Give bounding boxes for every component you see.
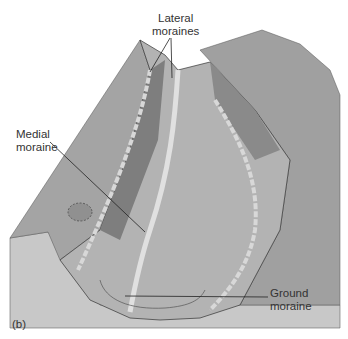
panel-label: (b) (12, 318, 26, 331)
medial-moraine-label: Medial moraine (16, 128, 58, 154)
lateral-moraines-label: Lateral moraines (152, 12, 199, 38)
small-pond (68, 203, 92, 221)
ground-moraine-label: Ground moraine (270, 287, 312, 313)
